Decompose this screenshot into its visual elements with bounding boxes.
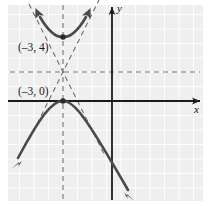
vertex-marker-upper <box>60 34 66 40</box>
vertex-label-lower: (–3, 0) <box>18 85 49 97</box>
x-axis-label: x <box>194 103 199 115</box>
vertex-label-upper: (–3, 4) <box>18 41 49 53</box>
vertex-marker-lower <box>60 98 66 104</box>
hyperbola-figure: (–3, 4) (–3, 0) y x <box>0 0 213 206</box>
y-axis-label: y <box>117 2 122 14</box>
graph-canvas <box>0 0 213 206</box>
plot-background <box>8 5 203 201</box>
